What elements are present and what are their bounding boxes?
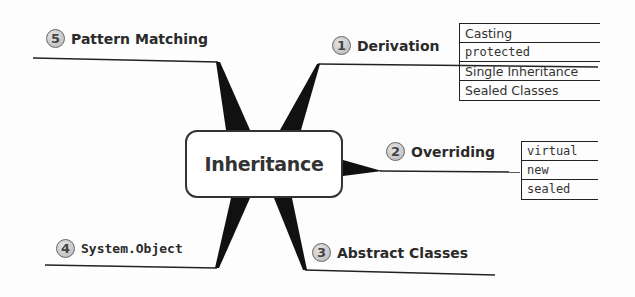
subitem-sealed[interactable]: sealed — [522, 179, 598, 200]
subitem-single-inheritance[interactable]: Single Inheritance — [460, 61, 600, 80]
branch-label: Pattern Matching — [71, 31, 208, 47]
branch-label: Overriding — [411, 144, 495, 160]
central-node-label: Inheritance — [204, 153, 323, 175]
branch-pattern-matching[interactable]: 5 Pattern Matching — [46, 29, 208, 48]
overriding-subitems: virtual new sealed — [521, 141, 598, 200]
subitem-sealed-classes[interactable]: Sealed Classes — [460, 80, 600, 101]
branch-label: Derivation — [357, 38, 439, 54]
subitem-virtual[interactable]: virtual — [522, 141, 598, 160]
number-badge-5: 5 — [46, 29, 65, 48]
branch-label: Abstract Classes — [337, 245, 468, 261]
central-node-inheritance[interactable]: Inheritance — [185, 130, 343, 198]
number-badge-3: 3 — [312, 243, 331, 262]
number-badge-4: 4 — [56, 239, 75, 258]
number-badge-1: 1 — [332, 36, 351, 55]
number-badge-2: 2 — [386, 142, 405, 161]
subitem-casting[interactable]: Casting — [460, 23, 600, 42]
derivation-subitems: Casting protected Single Inheritance Sea… — [459, 23, 600, 101]
branch-derivation[interactable]: 1 Derivation — [332, 36, 439, 55]
branch-overriding[interactable]: 2 Overriding — [386, 142, 495, 161]
branch-system-object[interactable]: 4 System.Object — [56, 239, 183, 258]
subitem-protected[interactable]: protected — [460, 42, 600, 61]
branch-label: System.Object — [81, 241, 183, 256]
mind-map: Inheritance 5 Pattern Matching 1 Derivat… — [0, 0, 635, 297]
subitem-new[interactable]: new — [522, 160, 598, 179]
branch-abstract-classes[interactable]: 3 Abstract Classes — [312, 243, 468, 262]
